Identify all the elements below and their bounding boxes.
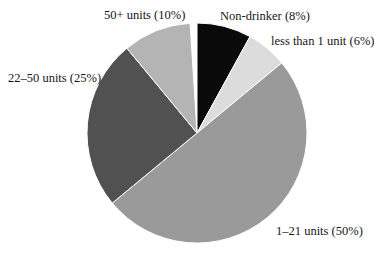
slice-label-less-than-1-unit: less than 1 unit (6%) [271, 34, 374, 48]
slice-label-22-50-units: 22–50 units (25%) [8, 71, 101, 85]
slice-label-50-plus-units: 50+ units (10%) [104, 8, 185, 22]
slice-label-non-drinker: Non-drinker (8%) [220, 9, 310, 23]
pie-chart-figure: 50+ units (10%) Non-drinker (8%) less th… [0, 0, 374, 253]
slice-label-1-21-units: 1–21 units (50%) [276, 224, 363, 238]
